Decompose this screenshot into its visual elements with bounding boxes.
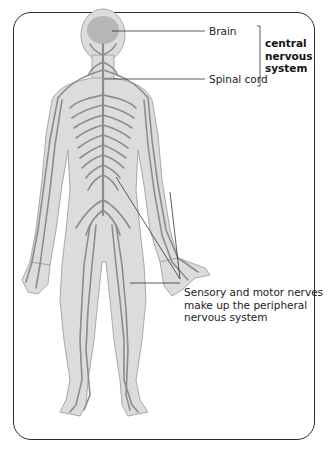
body-silhouette (22, 9, 210, 416)
brain-shape (87, 16, 119, 44)
central-nervous-system-label: central nervous system (265, 37, 313, 75)
cns-label-line-2: nervous (265, 50, 313, 63)
cns-label-line-3: system (265, 62, 313, 75)
spinal-cord-label: Spinal cord (209, 73, 268, 86)
brain-label: Brain (209, 25, 237, 38)
cns-label-line-1: central (265, 37, 313, 50)
pns-label-line-2: make up the peripheral (184, 299, 323, 312)
pns-label-line-3: nervous system (184, 311, 323, 324)
peripheral-nervous-system-label: Sensory and motor nerves make up the per… (184, 286, 323, 324)
pns-label-line-1: Sensory and motor nerves (184, 286, 323, 299)
